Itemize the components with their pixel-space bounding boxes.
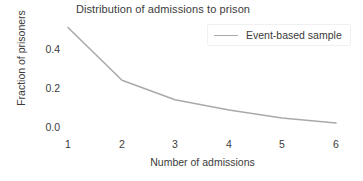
legend-entry-label: Event-based sample [246,29,342,41]
legend-line-swatch-icon [214,35,238,36]
chart-legend: Event-based sample [207,24,351,46]
chart-figure: Distribution of admissions to prison Fra… [0,0,363,181]
